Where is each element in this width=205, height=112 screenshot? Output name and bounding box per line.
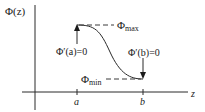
x-axis-label: z bbox=[190, 88, 195, 99]
phi-min-label: Φmin bbox=[81, 73, 102, 87]
tick-a-label: a bbox=[74, 96, 79, 107]
tick-b-label: b bbox=[140, 96, 145, 107]
phi-max-label: Φmax bbox=[117, 19, 139, 33]
deriv-b-label: Φ′(b)=0 bbox=[128, 47, 160, 59]
deriv-a-label: Φ′(a)=0 bbox=[56, 46, 87, 58]
y-axis-label: Φ(z) bbox=[5, 5, 26, 18]
potential-diagram: Φ(z) z a b Φmax Φmin Φ′(a)=0 Φ′(b)=0 bbox=[0, 0, 205, 112]
arrow-down-icon bbox=[140, 72, 146, 79]
